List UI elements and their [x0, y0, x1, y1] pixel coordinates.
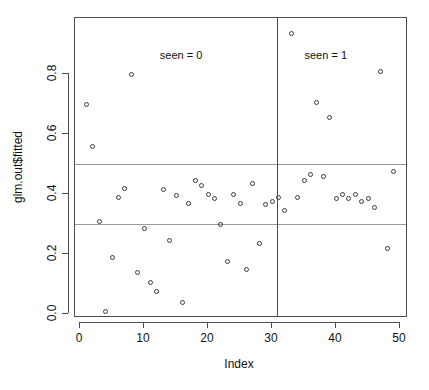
x-tick-label-3: 30 [264, 331, 277, 345]
data-point [276, 195, 281, 200]
r-scatter-plot: seen = 0seen = 1 01020304050 0.00.20.40.… [0, 0, 429, 390]
data-point [270, 199, 275, 204]
data-point [244, 267, 249, 272]
x-axis-line [79, 322, 399, 323]
data-point [385, 246, 390, 251]
data-point [225, 259, 230, 264]
x-tick-1 [143, 322, 144, 328]
x-tick-5 [399, 322, 400, 328]
horizontal-reference-line-1 [75, 224, 406, 225]
data-point [122, 186, 127, 191]
data-point [231, 192, 236, 197]
x-axis-title: Index [224, 357, 253, 371]
horizontal-reference-line-0 [75, 164, 406, 165]
y-tick-label-1: 0.2 [45, 243, 59, 263]
vertical-divider-line-0 [277, 18, 278, 316]
x-tick-0 [79, 322, 80, 328]
data-point [359, 199, 364, 204]
data-point [212, 196, 217, 201]
y-tick-label-4: 0.8 [45, 63, 59, 83]
data-point [334, 196, 339, 201]
data-point [174, 193, 179, 198]
data-point [186, 201, 191, 206]
data-point [340, 192, 345, 197]
data-point [180, 300, 185, 305]
panel-annotation-0: seen = 0 [160, 49, 203, 61]
data-point [308, 172, 313, 177]
data-point [97, 219, 102, 224]
data-point [372, 205, 377, 210]
panel-annotation-1: seen = 1 [304, 49, 347, 61]
data-point [295, 195, 300, 200]
y-tick-0 [62, 313, 68, 314]
data-point [135, 270, 140, 275]
data-point [238, 201, 243, 206]
data-point [116, 195, 121, 200]
data-point [90, 144, 95, 149]
y-tick-label-2: 0.4 [45, 183, 59, 203]
x-tick-label-5: 50 [392, 331, 405, 345]
data-point [206, 192, 211, 197]
data-point [193, 178, 198, 183]
data-point [378, 69, 383, 74]
data-point [257, 241, 262, 246]
y-tick-2 [62, 193, 68, 194]
x-tick-3 [271, 322, 272, 328]
data-point [148, 280, 153, 285]
data-point [167, 238, 172, 243]
data-point [161, 187, 166, 192]
x-tick-4 [335, 322, 336, 328]
data-point [154, 289, 159, 294]
data-point [142, 226, 147, 231]
plot-panel: seen = 0seen = 1 [74, 17, 407, 317]
data-point [353, 192, 358, 197]
x-tick-label-4: 40 [328, 331, 341, 345]
x-tick-2 [207, 322, 208, 328]
x-tick-label-2: 20 [200, 331, 213, 345]
data-point [391, 169, 396, 174]
data-point [218, 222, 223, 227]
x-tick-label-0: 0 [76, 331, 83, 345]
y-tick-4 [62, 73, 68, 74]
y-axis-title: glm.out$fitted [11, 131, 25, 203]
y-axis-line [68, 73, 69, 313]
y-tick-1 [62, 253, 68, 254]
x-tick-label-1: 10 [136, 331, 149, 345]
data-point [84, 102, 89, 107]
data-point [327, 115, 332, 120]
data-point [110, 255, 115, 260]
data-point [103, 309, 108, 314]
data-point [282, 208, 287, 213]
data-point [129, 72, 134, 77]
data-point [346, 196, 351, 201]
data-point [250, 181, 255, 186]
data-point [199, 183, 204, 188]
data-point [263, 202, 268, 207]
data-point [302, 178, 307, 183]
data-point [289, 31, 294, 36]
y-tick-3 [62, 133, 68, 134]
y-tick-label-0: 0.0 [45, 303, 59, 323]
data-point [314, 100, 319, 105]
data-point [321, 174, 326, 179]
y-tick-label-3: 0.6 [45, 123, 59, 143]
data-point [366, 196, 371, 201]
